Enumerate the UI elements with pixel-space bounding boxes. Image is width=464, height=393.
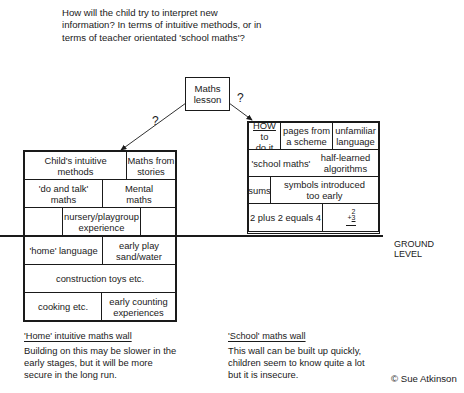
home-wall-caption: 'Home' intuitive maths wall Building on …	[24, 331, 176, 380]
ground-line	[0, 235, 383, 237]
brick-half-learned-algorithms: half-learnedalgorithms	[313, 149, 379, 177]
brick-nursery-playgroup: nursery/playgroupexperience	[62, 207, 141, 236]
brick-childs-intuitive-methods: Child's intuitivemethods	[24, 151, 127, 180]
brick-school-maths: 'school maths'	[248, 149, 314, 177]
brick-do-and-talk-maths: 'do and talk'maths	[24, 179, 103, 208]
brick-early-play: early playsand/water	[102, 236, 176, 265]
vertical-sum-notation: 2 +3	[346, 209, 356, 226]
lesson-line1: Maths	[194, 83, 222, 95]
brick-symbols-introduced: symbols introducedtoo early	[270, 176, 379, 204]
brick-early-counting: early countingexperiences	[101, 292, 176, 321]
copyright-notice: © Sue Atkinson	[391, 373, 457, 384]
home-wall-caption-title: 'Home' intuitive maths wall	[24, 331, 176, 341]
brick-mental-maths: Mentalmaths	[102, 179, 176, 208]
arrow-to-school-wall	[229, 103, 252, 120]
brick-construction-toys: construction toys etc.	[24, 264, 176, 293]
ground-level-label: GROUND LEVEL	[394, 239, 464, 259]
brick-how-to-do-it: HOW todo it	[248, 122, 281, 150]
brick-2-plus-2: 2 plus 2 equals 4	[248, 203, 323, 232]
brick-sums: sums	[248, 176, 271, 204]
brick-pages-from-scheme: pages froma scheme	[280, 122, 333, 150]
brick-empty-left	[24, 207, 63, 236]
brick-vertical-sum: 2 +3	[322, 203, 379, 232]
brick-empty-right	[140, 207, 176, 236]
question-mark-left: ?	[152, 114, 159, 128]
brick-cooking: cooking etc.	[24, 292, 102, 321]
brick-maths-from-stories: Maths fromstories	[126, 151, 176, 180]
brick-unfamiliar-language: unfamiliarlanguage	[332, 122, 379, 150]
question-mark-right: ?	[237, 91, 244, 105]
school-wall-caption-title: 'School' maths wall	[228, 331, 365, 341]
lesson-line2: lesson	[194, 94, 222, 106]
school-wall-caption: 'School' maths wall This wall can be bui…	[228, 331, 365, 380]
brick-home-language: 'home' language	[24, 236, 103, 265]
maths-lesson-box: Maths lesson	[185, 77, 230, 111]
